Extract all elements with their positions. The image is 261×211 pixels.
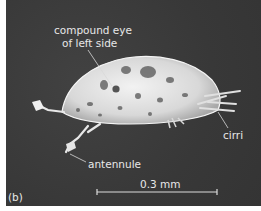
panel-label: (b) xyxy=(8,191,23,203)
compound-eye-label-line2: of left side xyxy=(62,37,117,49)
micrograph xyxy=(6,0,261,206)
compound-eye-label-line1: compound eye xyxy=(54,24,132,36)
scale-bar-label: 0.3 mm xyxy=(140,178,181,190)
cirri-label: cirri xyxy=(223,129,243,141)
specimen-illustration xyxy=(6,0,261,206)
antennule-label: antennule xyxy=(88,158,141,170)
